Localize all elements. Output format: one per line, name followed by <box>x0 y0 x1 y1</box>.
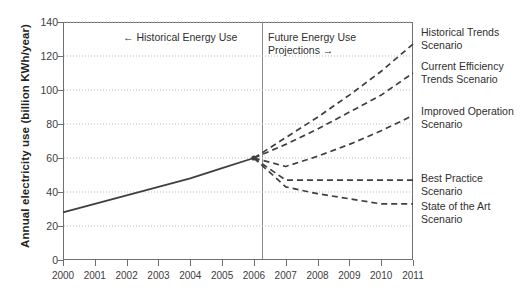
y-axis-tick <box>57 56 63 57</box>
series-line <box>254 44 413 158</box>
series-label-current-efficiency-trends: Current Efficiency Trends Scenario <box>421 60 529 85</box>
series-label-line2: Scenario <box>421 118 529 131</box>
series-label-line2: Trends Scenario <box>421 73 529 86</box>
series-line <box>63 158 254 212</box>
y-axis-tick <box>57 22 63 23</box>
y-axis-tick <box>57 158 63 159</box>
x-axis-tick-label: 2011 <box>402 270 424 281</box>
series-line <box>254 116 413 167</box>
x-axis-tick <box>158 260 159 266</box>
x-axis-tick <box>63 260 64 266</box>
x-axis-tick <box>95 260 96 266</box>
chart-figure: Annual electricity use (billion KWh/year… <box>0 0 531 304</box>
x-axis-tick-label: 2005 <box>211 270 233 281</box>
y-axis-tick <box>57 192 63 193</box>
x-axis-tick <box>222 260 223 266</box>
historical-region-note: ← Historical Energy Use <box>123 31 237 44</box>
x-axis-tick <box>318 260 319 266</box>
x-axis-tick <box>254 260 255 266</box>
series-label-line1: Historical Trends <box>421 26 529 39</box>
x-axis-tick <box>190 260 191 266</box>
x-axis-tick-label: 2006 <box>243 270 265 281</box>
series-line <box>254 158 413 180</box>
x-axis-tick-label: 2007 <box>275 270 297 281</box>
series-label-improved-operation: Improved Operation Scenario <box>421 105 529 130</box>
series-label-line1: Improved Operation <box>421 105 529 118</box>
x-axis-tick-label: 2002 <box>116 270 138 281</box>
x-axis-tick-label: 2008 <box>306 270 328 281</box>
x-axis-tick-label: 2009 <box>338 270 360 281</box>
x-axis-tick-label: 2000 <box>52 270 74 281</box>
x-axis-tick <box>381 260 382 266</box>
x-axis-tick-label: 2004 <box>179 270 201 281</box>
series-label-line1: Best Practice <box>421 172 529 185</box>
y-axis-tick <box>57 226 63 227</box>
y-axis-tick <box>57 90 63 91</box>
series-label-line2: Scenario <box>421 39 529 52</box>
series-label-state-of-the-art: State of the Art Scenario <box>421 200 529 225</box>
series-label-line1: Current Efficiency <box>421 60 529 73</box>
series-label-line2: Scenario <box>421 213 529 226</box>
x-axis-tick-label: 2010 <box>370 270 392 281</box>
future-region-note: Future Energy Use Projections → <box>268 31 364 57</box>
y-axis-tick <box>57 124 63 125</box>
series-label-historical-trends: Historical Trends Scenario <box>421 26 529 51</box>
convergence-point-marker <box>251 155 256 160</box>
series-line <box>254 73 413 158</box>
x-axis-tick-label: 2001 <box>84 270 106 281</box>
series-label-line2: Scenario <box>421 185 529 198</box>
x-axis-tick-label: 2003 <box>147 270 169 281</box>
x-axis-tick <box>127 260 128 266</box>
series-label-best-practice: Best Practice Scenario <box>421 172 529 197</box>
x-axis-tick <box>349 260 350 266</box>
x-axis-tick <box>413 260 414 266</box>
series-label-line1: State of the Art <box>421 200 529 213</box>
x-axis-tick <box>286 260 287 266</box>
